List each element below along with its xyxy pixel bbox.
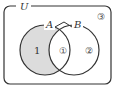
region-a-only-label: 1: [34, 45, 40, 56]
set-a-label: A: [45, 19, 53, 30]
universe-label: U: [20, 1, 29, 12]
venn-diagram: U A B 1 ① ② ③: [0, 0, 120, 91]
region-intersection-label: ①: [59, 46, 67, 56]
region-outside-label: ③: [97, 12, 105, 22]
set-b-label: B: [73, 19, 81, 30]
region-b-only-label: ②: [85, 46, 93, 56]
